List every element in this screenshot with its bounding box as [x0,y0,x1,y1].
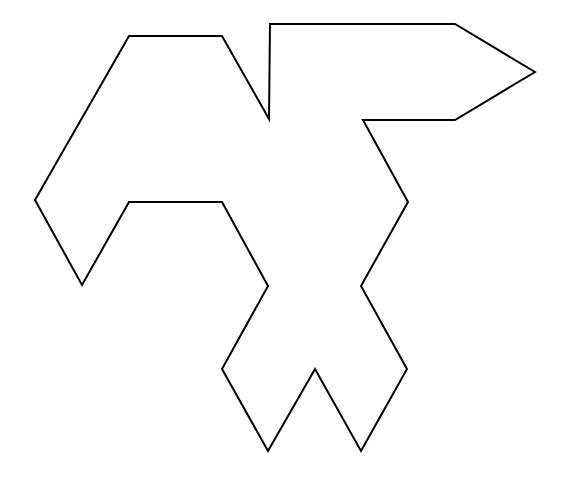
silhouette-polygon [35,24,535,451]
diagram-canvas [0,0,566,479]
